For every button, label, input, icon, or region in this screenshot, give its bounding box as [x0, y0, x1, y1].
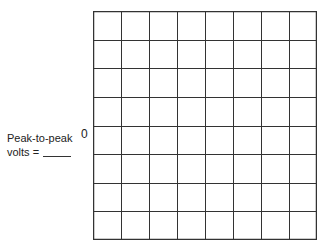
zero-axis-label: 0 — [81, 127, 88, 141]
label-line-2: volts = — [7, 145, 72, 159]
answer-blank[interactable] — [43, 156, 71, 157]
oscilloscope-grid — [93, 11, 317, 240]
peak-to-peak-label: Peak-to-peak volts = — [7, 131, 72, 159]
label-line-1: Peak-to-peak — [7, 131, 72, 145]
